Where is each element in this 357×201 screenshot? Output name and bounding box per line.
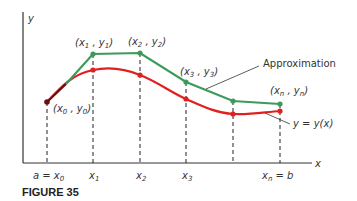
label-x3-y3: (x3 , y3) <box>180 66 218 79</box>
label-x1-y1: (x1 , y1) <box>75 37 113 50</box>
x-axis-label: x <box>314 158 321 169</box>
tick-x1: x1 <box>88 170 99 183</box>
approximation-annotation: Approximation <box>263 58 336 69</box>
label-x0-y0: (x0 , y0) <box>53 103 91 116</box>
tick-a-x0: a = x0 <box>33 170 65 183</box>
y-axis-label: y <box>27 13 35 24</box>
approximation-polyline <box>66 53 280 104</box>
figure-caption: FIGURE 35 <box>22 186 79 198</box>
euler-method-diagram: y x (x0 , y0) (x1 , y1) (x2 , y2) (x3 , … <box>0 0 357 201</box>
initial-point <box>44 99 50 105</box>
tick-x3: x3 <box>181 170 192 183</box>
label-xn-yn: (xn , yn) <box>270 85 308 98</box>
tick-x2: x2 <box>135 170 147 183</box>
curve-leader <box>265 113 290 124</box>
label-x2-y2: (x2 , y2) <box>128 36 166 49</box>
start-segment <box>47 84 66 102</box>
tick-xn-b: xn = b <box>261 170 293 183</box>
curve-annotation: y = y(x) <box>292 118 333 129</box>
